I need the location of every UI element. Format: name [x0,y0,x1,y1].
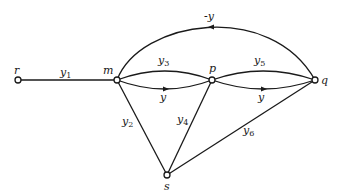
edge-label-y-mp: y [159,91,167,104]
node-label-r: r [14,64,20,77]
edge-label-y3: y3 [157,54,169,68]
edge-label-y2: y2 [121,115,133,129]
node-label-p: p [209,62,216,75]
edge-label-y-pq: y [257,91,265,104]
node-p [209,77,215,83]
edge-label-neg-y: -y [204,10,215,23]
arrow-feedback-icon [208,25,214,30]
edge-label-y6: y6 [242,124,254,138]
node-label-s: s [164,180,170,193]
node-q [312,77,318,83]
signal-flow-graph: r m p q s y1 y3 y y5 y -y y2 y4 y6 [0,0,338,195]
node-s [164,172,170,178]
node-r [15,77,21,83]
edge-m-p-upper [117,71,212,80]
node-label-q: q [321,74,328,87]
node-m [114,77,120,83]
edge-p-q-upper [212,71,315,80]
edge-label-y4: y4 [176,113,188,127]
node-label-m: m [103,64,113,77]
edge-label-y1: y1 [59,66,71,80]
edge-label-y5: y5 [253,54,265,68]
